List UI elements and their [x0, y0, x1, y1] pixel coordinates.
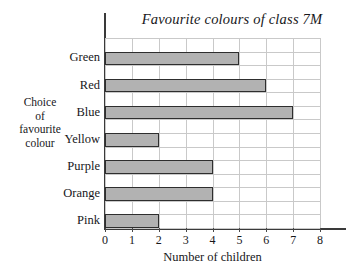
x-axis-title: Number of children	[105, 250, 320, 265]
gridline-horizontal	[105, 147, 320, 148]
plot-area	[105, 38, 320, 228]
x-tick-label-2: 2	[148, 233, 170, 248]
x-tick-mark	[213, 228, 214, 232]
x-tick-label-0: 0	[94, 233, 116, 248]
bar-blue	[105, 106, 293, 120]
gridline-horizontal	[105, 119, 320, 120]
gridline-horizontal	[105, 65, 320, 66]
x-tick-mark	[266, 228, 267, 232]
category-label-red: Red	[4, 78, 100, 93]
gridline-horizontal	[105, 92, 320, 93]
y-axis-title: Choiceoffavouritecolour	[4, 96, 76, 150]
bar-yellow	[105, 133, 159, 147]
x-tick-mark	[105, 228, 106, 232]
category-label-orange: Orange	[4, 186, 100, 201]
gridline-vertical	[320, 38, 321, 228]
y-axis-title-line-3: colour	[4, 137, 76, 151]
category-label-pink: Pink	[4, 213, 100, 228]
bar-pink	[105, 214, 159, 228]
y-axis-title-line-0: Choice	[4, 96, 76, 110]
bar-chart: Favourite colours of class 7M GreenRedBl…	[0, 0, 353, 275]
y-axis-title-line-1: of	[4, 110, 76, 124]
x-tick-label-1: 1	[121, 233, 143, 248]
bar-green	[105, 52, 239, 66]
x-tick-mark	[320, 228, 321, 232]
x-tick-mark	[132, 228, 133, 232]
x-tick-label-4: 4	[202, 233, 224, 248]
bar-purple	[105, 160, 213, 174]
x-tick-label-8: 8	[309, 233, 331, 248]
gridline-horizontal	[105, 201, 320, 202]
chart-title: Favourite colours of class 7M	[118, 11, 346, 28]
category-label-green: Green	[4, 50, 100, 65]
x-tick-label-5: 5	[228, 233, 250, 248]
bar-red	[105, 79, 266, 93]
bar-orange	[105, 187, 213, 201]
x-tick-mark	[239, 228, 240, 232]
gridline-horizontal	[105, 38, 320, 39]
gridline-horizontal	[105, 174, 320, 175]
category-label-purple: Purple	[4, 159, 100, 174]
x-tick-mark	[293, 228, 294, 232]
x-tick-mark	[159, 228, 160, 232]
x-tick-label-3: 3	[175, 233, 197, 248]
x-tick-label-6: 6	[255, 233, 277, 248]
x-tick-label-7: 7	[282, 233, 304, 248]
x-tick-mark	[186, 228, 187, 232]
y-axis-title-line-2: favourite	[4, 123, 76, 137]
